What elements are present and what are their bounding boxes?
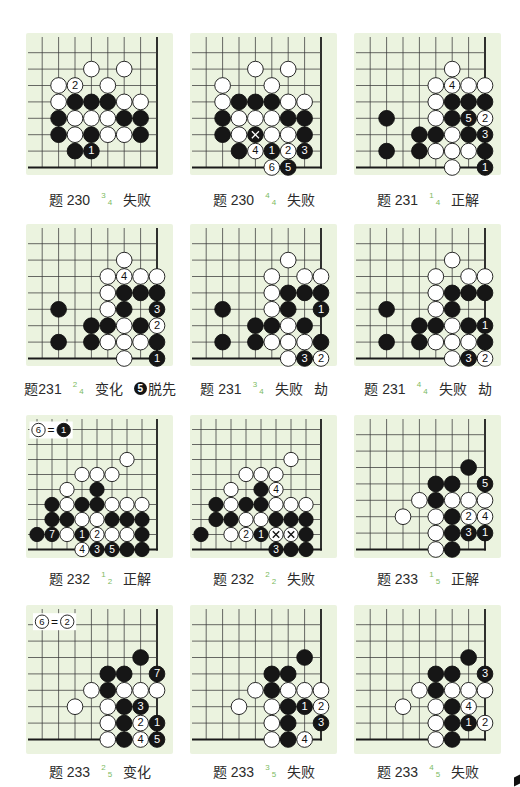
problem-number: 题 230 [49,189,90,209]
white-stone [149,682,165,698]
black-stone [444,666,460,682]
white-stone [428,699,444,715]
white-stone [133,682,149,698]
black-stone [461,318,477,334]
result-label: 失败 [123,189,151,209]
go-board: 45231 [354,33,501,175]
white-stone-6: 6 [264,160,280,176]
move-number: 3 [482,128,488,140]
white-stone [116,682,132,698]
move-number: 1 [79,529,85,540]
diagram-panel-231-4of4: 132 [354,224,501,366]
white-stone [477,682,493,698]
black-stone [444,732,460,748]
move-number: 6 [269,161,275,173]
white-stone [444,252,460,268]
move-number: 4 [138,733,144,745]
white-stone [100,715,116,731]
move-number: 3 [302,144,308,156]
black-stone [133,110,149,126]
white-stone [280,334,296,350]
white-stone-4: 4 [133,732,149,748]
black-stone-1: 1 [149,351,165,367]
white-stone [477,78,493,94]
black-stone [215,110,231,126]
black-stone [428,666,444,682]
black-stone-1: 1 [461,715,477,731]
caption-231-4of4: 题 231 44 失败 劫 [348,379,508,397]
white-stone [239,467,253,481]
result-label: 正解 [451,568,479,588]
black-stone [269,512,283,526]
white-stone [313,269,329,285]
move-number: 6 [36,424,41,435]
white-stone [248,682,264,698]
result-label: 失败 [287,568,315,588]
black-stone [215,301,231,317]
diagram-panel-233-1of5: 52431 [354,415,501,558]
stones: 1234 [231,650,329,748]
move-number: 4 [302,733,308,745]
white-stone [264,78,280,94]
caption-231-1of4: 题 231 14 正解 [348,190,508,208]
white-stone-4: 4 [116,269,132,285]
black-stone [116,732,132,748]
result-label: 失败 [287,761,315,781]
move-number: 4 [466,700,472,712]
move-number: 5 [109,544,115,555]
move-number: 4 [121,270,127,282]
white-stone [284,527,298,541]
white-stone-4: 4 [444,78,460,94]
white-stone [100,285,116,301]
move-number: 5 [154,733,160,745]
black-stone [412,334,428,350]
caption-233-3of5: 题 233 35 失败 [184,762,344,780]
black-stone [477,143,493,159]
black-stone [84,318,100,334]
move-number: 1 [88,144,94,156]
black-stone [224,512,238,526]
black-stone [461,460,477,476]
move-number: 4 [482,510,488,522]
black-stone [133,650,149,666]
white-stone [67,110,83,126]
caption-233-4of5: 题 233 45 失败 [348,762,508,780]
white-stone-2: 2 [280,143,296,159]
white-stone [269,527,283,541]
white-stone [67,699,83,715]
problem-number: 题 232 [213,568,254,588]
black-stone [313,334,329,350]
black-stone-3: 3 [149,301,165,317]
white-stone-4: 4 [297,732,313,748]
variation-fraction: 22 [265,570,276,586]
black-stone [209,497,223,511]
go-board: 7321456=2 [26,605,173,754]
variation-fraction: 12 [101,570,112,586]
white-stone [116,334,132,350]
move-number: 4 [252,144,258,156]
go-board: 4213 [190,415,337,558]
white-stone [105,497,119,511]
white-stone [100,301,116,317]
white-stone-2: 2 [90,527,104,541]
black-stone [116,285,132,301]
white-stone [264,732,280,748]
white-stone [60,497,74,511]
white-stone [428,285,444,301]
white-stone-4: 4 [477,509,493,525]
white-stone-2: 2 [67,78,83,94]
move-number: 2 [318,352,324,364]
white-stone-2: 2 [133,715,149,731]
black-stone [444,715,460,731]
black-stone-3: 3 [477,666,493,682]
black-stone-3: 3 [461,351,477,367]
move-number: 3 [466,526,472,538]
black-stone [444,525,460,541]
move-number: 5 [482,477,488,489]
caption-230-4of4: 题 230 44 失败 [184,190,344,208]
white-stone [231,699,247,715]
white-stone [116,318,132,334]
black-stone [444,699,460,715]
white-stone-2: 2 [313,699,329,715]
white-stone [444,160,460,176]
